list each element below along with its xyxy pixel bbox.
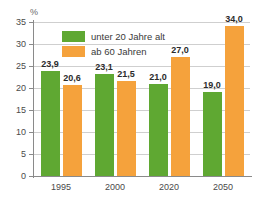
y-tick-label: 10 [0, 128, 26, 137]
y-tick-label: 15 [0, 106, 26, 115]
x-axis-line [30, 176, 252, 177]
y-tick-mark [29, 110, 34, 111]
y-tick-label: 30 [0, 40, 26, 49]
legend-label-green: unter 20 Jahre alt [91, 31, 165, 42]
x-tick-label: 2020 [149, 182, 189, 192]
bar-value-label: 20,6 [55, 73, 89, 83]
bar [41, 71, 60, 176]
bar-value-label: 21,5 [109, 69, 143, 79]
y-tick-label: 0 [0, 172, 26, 181]
y-axis-unit-label: % [30, 7, 38, 17]
y-tick-mark [29, 132, 34, 133]
y-tick-mark [29, 44, 34, 45]
y-tick-label: 20 [0, 84, 26, 93]
y-tick-label: 25 [0, 62, 26, 71]
x-tick-label: 2000 [95, 182, 135, 192]
bar [149, 84, 168, 176]
bar-value-label: 19,0 [195, 80, 229, 90]
x-tick-label: 1995 [41, 182, 81, 192]
bar [63, 85, 82, 176]
legend-label-orange: ab 60 Jahren [91, 46, 146, 57]
y-tick-label: 5 [0, 150, 26, 159]
legend: unter 20 Jahre alt ab 60 Jahren [62, 31, 165, 57]
bar [95, 74, 114, 176]
x-tick-label: 2050 [203, 182, 243, 192]
bar-value-label: 23,9 [33, 59, 67, 69]
bar-chart: % 05101520253035 1995200020202050 23,920… [0, 0, 262, 203]
legend-item-ab-60[interactable]: ab 60 Jahren [62, 46, 165, 57]
bar-value-label: 34,0 [217, 14, 251, 24]
bar [203, 92, 222, 176]
bar-value-label: 21,0 [141, 72, 175, 82]
bar-value-label: 27,0 [163, 45, 197, 55]
y-tick-mark [29, 88, 34, 89]
y-tick-mark [29, 22, 34, 23]
y-tick-mark [29, 176, 34, 177]
legend-swatch-green [62, 31, 85, 42]
legend-item-unter-20[interactable]: unter 20 Jahre alt [62, 31, 165, 42]
bar [117, 81, 136, 176]
y-tick-mark [29, 154, 34, 155]
bar [225, 26, 244, 176]
legend-swatch-orange [62, 46, 85, 57]
y-tick-label: 35 [0, 18, 26, 27]
